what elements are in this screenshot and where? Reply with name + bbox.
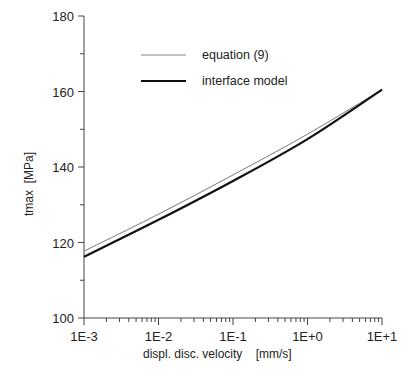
y-tick-label: 120 [52,236,74,251]
x-tick-label: 1E-2 [145,329,172,344]
y-tick-label: 160 [52,85,74,100]
series-line-equation [84,90,382,252]
y-axis-title: tmax [MPa] [22,152,36,216]
legend-label-equation: equation (9) [202,48,269,62]
x-tick-label: 1E+1 [367,329,398,344]
chart: 1001201401601801E-31E-21E-11E+01E+1 equa… [0,0,409,378]
y-tick-label: 140 [52,160,74,175]
x-axis-title: displ. disc. velocity [mm/s] [143,347,292,361]
x-tick-label: 1E+0 [292,329,323,344]
x-tick-label: 1E-3 [70,329,97,344]
curves [84,90,382,257]
y-tick-label: 180 [52,9,74,24]
y-tick-label: 100 [52,311,74,326]
series-line-interface [84,90,382,257]
x-tick-label: 1E-1 [219,329,246,344]
legend-label-interface: interface model [202,74,287,88]
legend: equation (9) interface model [141,48,287,88]
